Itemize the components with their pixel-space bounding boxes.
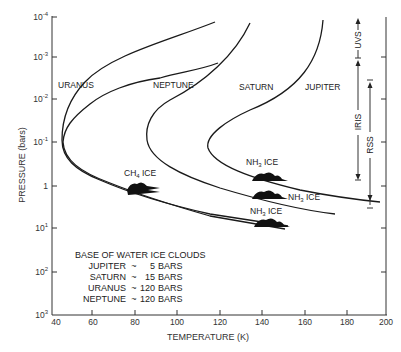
ch4-ice-label: CH4 ICE <box>124 168 156 179</box>
neptune-label: NEPTUNE <box>153 80 194 90</box>
svg-text:NEPTUNE: NEPTUNE <box>83 294 126 304</box>
svg-text:~: ~ <box>131 283 136 293</box>
saturn-label: SATURN <box>239 82 273 92</box>
svg-text:200: 200 <box>379 317 393 327</box>
right-axis <box>381 17 386 315</box>
svg-text:120: 120 <box>140 283 155 293</box>
ch4-ice-cloud-icon <box>127 182 160 195</box>
svg-text:100: 100 <box>170 317 184 327</box>
water-ice-clouds-note: BASE OF WATER ICE CLOUDS JUPITER ~ 5 BAR… <box>75 250 206 304</box>
svg-text:5: 5 <box>150 261 155 271</box>
pressure-temperature-chart: 10-4 10-3 10-2 10-1 1 101 102 103 PRESSU… <box>0 0 401 352</box>
y-tick-label: 10-4 <box>33 11 48 22</box>
y-tick-label: 10-1 <box>33 136 48 147</box>
y-axis <box>52 16 57 315</box>
svg-text:~: ~ <box>131 294 136 304</box>
svg-text:BARS: BARS <box>158 261 183 271</box>
svg-text:180: 180 <box>340 317 354 327</box>
svg-text:15: 15 <box>145 272 155 282</box>
svg-text:JUPITER: JUPITER <box>88 261 126 271</box>
nh3-ice-cloud-jupiter-icon <box>252 172 288 181</box>
note-heading: BASE OF WATER ICE CLOUDS <box>75 250 206 260</box>
rss-range: RSS <box>365 80 375 208</box>
svg-text:60: 60 <box>88 317 98 327</box>
uranus-label: URANUS <box>58 80 94 90</box>
y-axis-title: PRESSURE (bars) <box>17 127 27 203</box>
uranus-curve <box>62 22 288 226</box>
svg-text:40: 40 <box>51 317 61 327</box>
y-tick-label: 102 <box>35 266 48 277</box>
saturn-curve <box>147 23 335 214</box>
iris-label: IRIS <box>353 113 363 130</box>
svg-text:URANUS: URANUS <box>88 283 126 293</box>
svg-text:120: 120 <box>213 317 227 327</box>
svg-text:SATURN: SATURN <box>90 272 126 282</box>
y-tick-label: 1 <box>43 181 48 191</box>
y-tick-label: 10-2 <box>33 93 48 104</box>
uvs-range: UVS <box>353 18 363 58</box>
nh3-ice-cloud-saturn-icon <box>252 190 288 199</box>
nh3-ice-label-uranus-neptune: NH3 ICE <box>250 206 282 217</box>
nh3-ice-label-jupiter: NH3 ICE <box>246 157 278 168</box>
y-tick-label: 103 <box>35 309 48 320</box>
y-tick-label: 10-3 <box>33 51 48 62</box>
svg-text:160: 160 <box>298 317 312 327</box>
svg-text:BARS: BARS <box>158 283 183 293</box>
x-tick-labels: 40 60 80 100 120 140 160 180 200 <box>51 317 393 327</box>
jupiter-label: JUPITER <box>305 82 340 92</box>
svg-text:~: ~ <box>131 272 136 282</box>
svg-text:BARS: BARS <box>158 272 183 282</box>
y-tick-label: 101 <box>35 222 48 233</box>
y-tick-labels: 10-4 10-3 10-2 10-1 1 101 102 103 <box>33 11 48 320</box>
rss-label: RSS <box>365 136 375 154</box>
nh3-ice-cloud-uranus-neptune-icon <box>254 218 290 227</box>
nh3-ice-label-saturn: NH3 ICE <box>288 192 320 203</box>
svg-text:80: 80 <box>130 317 140 327</box>
svg-text:BARS: BARS <box>158 294 183 304</box>
iris-range: IRIS <box>353 60 363 180</box>
uvs-label: UVS <box>353 31 363 49</box>
x-axis <box>52 310 387 315</box>
x-axis-title: TEMPERATURE (K) <box>167 332 249 342</box>
svg-text:140: 140 <box>255 317 269 327</box>
svg-text:120: 120 <box>140 294 155 304</box>
svg-text:~: ~ <box>131 261 136 271</box>
